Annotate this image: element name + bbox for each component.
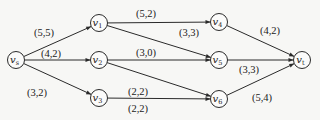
edge-label-v3-v6: (2,2) — [128, 103, 149, 115]
node-v6: v6 — [211, 91, 228, 108]
edge-label-v1-v5: (3,3) — [179, 27, 200, 39]
node-vt: vt — [294, 52, 311, 69]
edge-v3-v6 — [107, 98, 210, 99]
node-vs: vs — [8, 52, 25, 69]
node-v2: v2 — [91, 52, 108, 69]
flow-network-diagram: (5,5)(4,2)(3,2)(5,2)(3,3)(3,0)(2,2)(2,2)… — [0, 0, 320, 120]
edges-layer — [24, 22, 295, 99]
node-v1: v1 — [91, 15, 108, 32]
edge-label-v2-v6: (2,2) — [128, 86, 149, 98]
edge-label-v4-vt: (4,2) — [260, 25, 281, 37]
edge-label-v5-vt: (3,3) — [239, 64, 260, 76]
edge-label-v1-v4: (5,2) — [136, 8, 157, 20]
node-v4: v4 — [211, 14, 228, 31]
edge-label-vs-v1: (5,5) — [34, 27, 55, 39]
edge-label-vs-v2: (4,2) — [41, 48, 62, 60]
node-v5: v5 — [211, 52, 228, 69]
edge-v6-vt — [227, 64, 295, 96]
edge-v1-v4 — [107, 22, 210, 23]
edge-label-vs-v3: (3,2) — [27, 87, 48, 99]
node-v3: v3 — [91, 90, 108, 107]
edge-v2-v6 — [107, 63, 211, 97]
edge-label-v6-vt: (5,4) — [252, 92, 273, 104]
edge-label-v2-v5: (3,0) — [136, 47, 157, 59]
